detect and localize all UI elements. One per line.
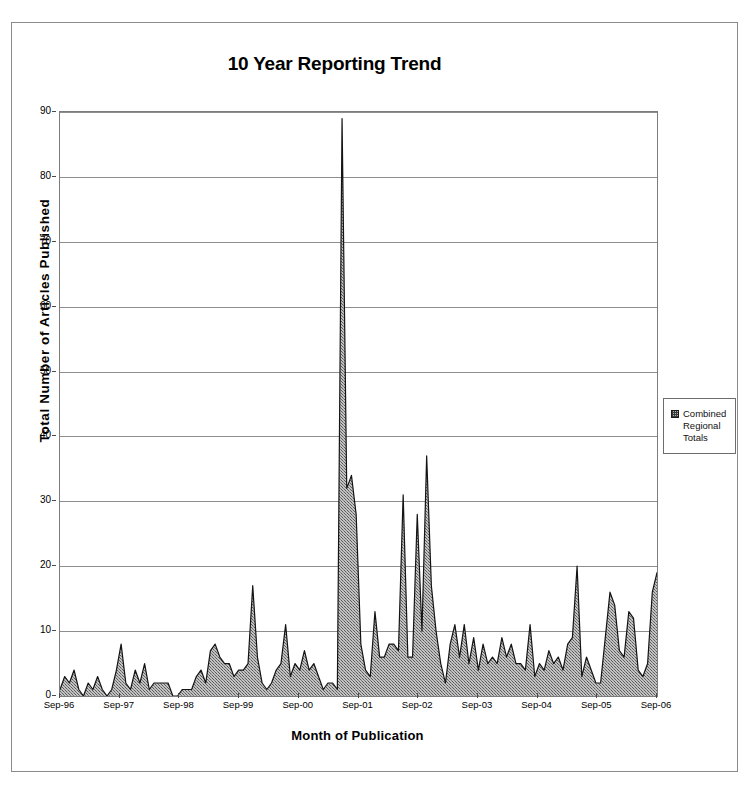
x-tick-label: Sep-96 [44,699,75,710]
y-tick-label: 70 [40,236,51,246]
legend-label-line-2: Regional [683,420,721,431]
y-tick-mark [52,695,56,696]
legend-entry-label: Combined Regional Totals [683,408,726,444]
legend-swatch-icon [671,410,679,418]
x-tick-mark [417,693,418,698]
plot-area [59,111,658,697]
y-tick-label: 10 [40,625,51,635]
y-tick-label: 30 [40,495,51,505]
x-tick-mark [178,693,179,698]
x-axis-tick-labels: Sep-96Sep-97Sep-98Sep-99Sep-00Sep-01Sep-… [59,699,656,719]
y-tick-mark [52,565,56,566]
y-tick-mark [52,435,56,436]
x-tick-label: Sep-00 [282,699,313,710]
y-tick-mark [52,306,56,307]
x-tick-label: Sep-98 [163,699,194,710]
x-tick-mark [477,693,478,698]
legend-label-line-3: Totals [683,432,708,443]
x-tick-label: Sep-05 [581,699,612,710]
y-tick-mark [52,241,56,242]
y-tick-label: 90 [40,106,51,116]
area-series-combined-regional-totals [60,112,657,696]
x-tick-mark [656,693,657,698]
legend-label-line-1: Combined [683,408,726,419]
y-tick-mark [52,371,56,372]
x-tick-mark [298,693,299,698]
chart-legend: Combined Regional Totals [663,398,736,454]
x-tick-mark [537,693,538,698]
x-tick-label: Sep-97 [103,699,134,710]
x-tick-mark [119,693,120,698]
x-tick-label: Sep-04 [521,699,552,710]
legend-entry: Combined Regional Totals [671,408,729,444]
x-tick-label: Sep-02 [402,699,433,710]
y-tick-mark [52,176,56,177]
x-axis-title: Month of Publication [59,728,656,743]
y-tick-label: 80 [40,171,51,181]
y-tick-mark [52,630,56,631]
x-tick-label: Sep-06 [641,699,672,710]
y-tick-label: 20 [40,560,51,570]
x-tick-label: Sep-03 [462,699,493,710]
y-tick-mark [52,111,56,112]
y-tick-label: 50 [40,366,51,376]
x-tick-mark [59,693,60,698]
y-axis-tick-labels: 0102030405060708090 [12,111,56,695]
x-tick-mark [596,693,597,698]
y-tick-mark [52,500,56,501]
chart-frame: 10 Year Reporting Trend Total Number of … [11,22,738,772]
x-tick-mark [238,693,239,698]
y-tick-label: 40 [40,430,51,440]
y-tick-label: 60 [40,301,51,311]
x-tick-mark [358,693,359,698]
x-tick-label: Sep-01 [342,699,373,710]
chart-title: 10 Year Reporting Trend [12,53,657,75]
x-tick-label: Sep-99 [223,699,254,710]
